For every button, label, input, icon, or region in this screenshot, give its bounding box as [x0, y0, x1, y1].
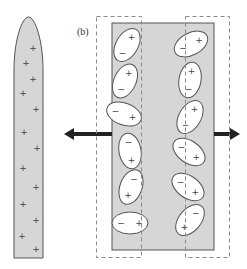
positive-charge: + — [180, 222, 188, 232]
positive-charge: + — [19, 163, 27, 173]
negative-charge: − — [117, 84, 125, 94]
positive-charge: + — [33, 143, 41, 153]
positive-charge: + — [125, 68, 133, 78]
positive-charge: + — [22, 58, 30, 68]
negative-charge: − — [177, 177, 185, 187]
negative-charge: − — [192, 208, 200, 218]
positive-charge: + — [29, 43, 37, 53]
panel-label: (b) — [77, 26, 89, 38]
negative-charge: − — [117, 218, 125, 228]
positive-charge: + — [19, 199, 27, 209]
positive-charge: + — [195, 35, 203, 45]
positive-charge: + — [129, 112, 137, 122]
negative-charge: − — [112, 106, 120, 116]
negative-charge: − — [125, 137, 133, 147]
positive-charge: + — [191, 104, 199, 114]
positive-charge: + — [32, 104, 40, 114]
dielectric-polarization-diagram: +++++++++++++ (b) +−+−+−+−+−+−+−+−+−+−+−… — [0, 0, 247, 269]
positive-charge: + — [29, 74, 37, 84]
positive-charge: + — [128, 155, 136, 165]
positive-charge: + — [192, 187, 200, 197]
left-arrow — [64, 128, 112, 140]
negative-charge: − — [130, 174, 138, 184]
positive-charge: + — [32, 244, 40, 254]
positive-charge: + — [188, 66, 196, 76]
charged-rod: +++++++++++++ — [14, 17, 43, 258]
positive-charge: + — [32, 182, 40, 192]
positive-charge: + — [20, 127, 28, 137]
negative-charge: − — [119, 48, 127, 58]
positive-charge: + — [18, 231, 26, 241]
positive-charge: + — [19, 88, 27, 98]
right-arrow — [214, 128, 240, 140]
positive-charge: + — [128, 32, 136, 42]
positive-charge: + — [193, 152, 201, 162]
dipole-left-6: +− — [112, 212, 148, 234]
positive-charge: + — [32, 215, 40, 225]
negative-charge: − — [178, 142, 186, 152]
positive-charge: + — [124, 190, 132, 200]
